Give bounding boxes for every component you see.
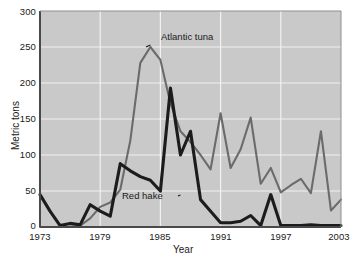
annotation-red-hake: Red hake bbox=[122, 190, 163, 201]
x-tick-label-2003: 2003 bbox=[321, 231, 351, 242]
x-tick-label-1991: 1991 bbox=[203, 231, 239, 242]
x-axis-title: Year bbox=[173, 244, 193, 255]
x-tick-label-1979: 1979 bbox=[82, 231, 118, 242]
x-tick-label-1973: 1973 bbox=[22, 231, 58, 242]
line-chart: 300 250 200 150 100 50 0 Metric tons bbox=[0, 0, 351, 258]
x-tick-label-1985: 1985 bbox=[142, 231, 178, 242]
annotation-atlantic-tuna: Atlantic tuna bbox=[161, 31, 213, 42]
x-tick-label-1997: 1997 bbox=[263, 231, 299, 242]
